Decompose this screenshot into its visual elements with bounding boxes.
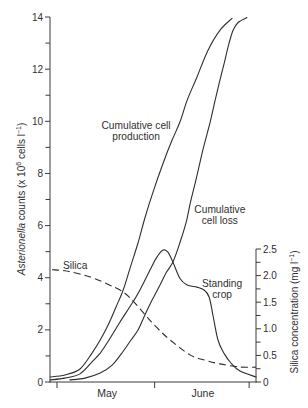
annotation-layer: Cumulative cellproductionCumulativecell … (63, 120, 246, 300)
x-month-label: June (191, 387, 214, 399)
left-tick-label: 10 (32, 116, 44, 127)
right-axis-title-text: ) (289, 250, 300, 253)
right-axis-title-text: Silica concentration (mg l (289, 262, 300, 374)
x-axis-ticks: MayJune (57, 382, 249, 399)
left-axis-ticks: 02468101214 (32, 12, 50, 388)
left-y-axis: 02468101214 (32, 12, 50, 388)
production-label-line: Cumulative cell (102, 120, 171, 131)
loss-label-line: cell loss (202, 215, 238, 226)
right-y-axis: 00.51.01.52.02.5 (256, 244, 277, 388)
left-axis-title-italic: Asterionella (16, 223, 27, 277)
x-axis: MayJune (50, 382, 257, 399)
left-axis-title-sup: −1 (15, 126, 22, 134)
left-axis-title-text: cells l (16, 134, 27, 162)
production-label-line: production (112, 131, 160, 142)
x-month-label: May (97, 387, 118, 399)
asterionella-silica-chart: Cumulative cellproductionCumulativecell … (0, 0, 308, 408)
silica-label: Silica (63, 260, 88, 271)
cumulative-cell-loss-line (70, 18, 247, 380)
left-tick-label: 4 (37, 272, 43, 283)
left-tick-label: 6 (37, 220, 43, 231)
right-tick-label: 2.0 (263, 270, 277, 281)
left-tick-label: 12 (32, 64, 44, 75)
left-tick-label: 0 (37, 377, 43, 388)
right-tick-label: 0 (263, 377, 269, 388)
left-tick-label: 2 (37, 324, 43, 335)
silica-label-line: Silica (63, 260, 88, 271)
left-axis-title-text: ) (16, 123, 27, 126)
loss-label-line: Cumulative (194, 204, 245, 215)
left-axis-title-text: counts (x 10 (16, 165, 27, 223)
loss-label: Cumulativecell loss (194, 204, 245, 226)
right-axis-title-sup: −1 (288, 254, 295, 262)
right-axis-title: Silica concentration (mg l−1) (288, 250, 300, 373)
standing-crop-label-line: crop (212, 289, 232, 300)
standing-crop-label-line: Standing (202, 278, 243, 289)
left-tick-label: 8 (37, 168, 43, 179)
production-label: Cumulative cellproduction (102, 120, 171, 142)
right-tick-label: 2.5 (263, 244, 277, 255)
right-tick-label: 1.0 (263, 323, 277, 334)
right-axis-ticks: 00.51.01.52.02.5 (256, 244, 277, 388)
right-tick-label: 1.5 (263, 297, 277, 308)
left-axis-title: Asterionella counts (x 106 cells l−1) (15, 123, 27, 277)
series-layer (50, 18, 256, 380)
right-tick-label: 0.5 (263, 350, 277, 361)
left-tick-label: 14 (32, 12, 44, 23)
standing-crop-label: Standingcrop (202, 278, 243, 300)
